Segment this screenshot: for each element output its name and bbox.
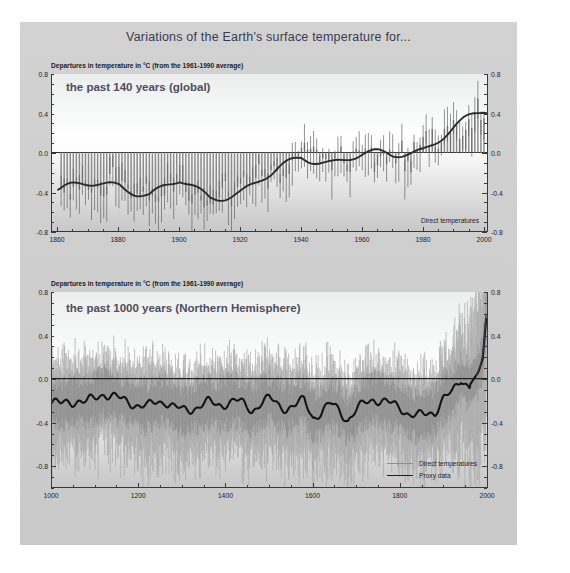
x-axis-tick-mark: [313, 483, 314, 488]
y-axis-tick-mark: [51, 114, 54, 115]
x-axis-tick-label: 1600: [305, 492, 320, 499]
y-axis-tick-mark: [484, 488, 487, 489]
y-axis-tick-mark: [482, 466, 487, 467]
x-axis-tick-mark: [400, 483, 401, 488]
chart-past-1000-years: Departures in temperature in °C (from th…: [20, 280, 517, 542]
y-axis-tick-mark: [51, 379, 56, 380]
y-axis-tick-mark: [484, 444, 487, 445]
x-axis-tick-mark: [182, 485, 183, 488]
y-axis-tick-mark: [484, 325, 487, 326]
y-axis-tick-mark: [484, 163, 487, 164]
y-axis-tick-mark: [51, 84, 54, 85]
x-axis-tick-mark: [225, 229, 226, 232]
y-axis-tick-label: 0.0: [39, 376, 48, 383]
chart-bottom-axis-caption: Departures in temperature in °C (from th…: [51, 280, 243, 287]
y-axis-tick-label: -0.4: [491, 189, 503, 196]
y-axis-tick-mark: [484, 455, 487, 456]
x-axis-tick-mark: [423, 227, 424, 232]
x-axis-tick-label: 1960: [354, 236, 369, 243]
y-axis-tick-mark: [484, 173, 487, 174]
y-axis-tick-mark: [51, 401, 54, 402]
y-axis-tick-label: 0.0: [39, 150, 48, 157]
y-axis-tick-mark: [484, 401, 487, 402]
y-axis-tick-label: -0.4: [36, 189, 48, 196]
y-axis-tick-mark: [51, 143, 54, 144]
y-axis-tick-mark: [51, 368, 54, 369]
chart-top-plot-wrap: the past 140 years (global) Direct tempe…: [51, 74, 487, 232]
chart-top-axis-caption: Departures in temperature in °C (from th…: [51, 62, 243, 69]
y-axis-tick-mark: [484, 477, 487, 478]
y-axis-tick-mark: [51, 292, 54, 293]
x-axis-tick-mark: [378, 485, 379, 488]
y-axis-tick-mark: [51, 133, 54, 134]
y-axis-tick-mark: [484, 143, 487, 144]
y-axis-tick-mark: [51, 202, 54, 203]
y-axis-tick-label: 0.8: [491, 71, 500, 78]
y-axis-tick-mark: [51, 434, 54, 435]
x-axis-tick-mark: [225, 483, 226, 488]
x-axis-tick-mark: [334, 485, 335, 488]
x-axis-tick-mark: [438, 229, 439, 232]
x-axis-tick-mark: [88, 229, 89, 232]
x-axis-tick-mark: [103, 229, 104, 232]
y-axis-tick-mark: [484, 114, 487, 115]
y-axis-tick-mark: [484, 183, 487, 184]
x-axis-tick-mark: [72, 229, 73, 232]
y-axis-tick-label: -0.8: [36, 463, 48, 470]
y-axis-tick-label: -0.8: [491, 229, 503, 236]
y-axis-tick-mark: [484, 84, 487, 85]
x-axis-tick-mark: [469, 229, 470, 232]
x-axis-tick-mark: [160, 485, 161, 488]
x-axis-tick-label: 1880: [111, 236, 126, 243]
y-axis-tick-mark: [484, 212, 487, 213]
y-axis-tick-label: 0.0: [491, 376, 500, 383]
x-axis-tick-mark: [316, 229, 317, 232]
x-axis-tick-mark: [269, 485, 270, 488]
x-axis-tick-label: 2000: [476, 236, 491, 243]
x-axis-tick-mark: [118, 227, 119, 232]
x-axis-tick-label: 2000: [479, 492, 494, 499]
x-axis-tick-mark: [453, 229, 454, 232]
legend-item-proxy-data: Proxy data: [387, 472, 477, 479]
x-axis-tick-label: 1900: [171, 236, 186, 243]
x-axis-tick-mark: [301, 227, 302, 232]
y-axis-tick-mark: [51, 477, 54, 478]
x-axis-tick-mark: [362, 227, 363, 232]
y-axis-tick-mark: [51, 466, 56, 467]
y-axis-tick-mark: [51, 488, 54, 489]
x-axis-tick-label: 1860: [50, 236, 65, 243]
y-axis-tick-mark: [51, 183, 54, 184]
x-axis-tick-mark: [164, 229, 165, 232]
legend-item-direct-temperatures: Direct temperatures: [387, 460, 477, 467]
y-axis-tick-label: 0.0: [491, 150, 500, 157]
x-axis-tick-mark: [73, 485, 74, 488]
chart-bottom-legend: Direct temperatures Proxy data: [387, 455, 477, 479]
chart-past-140-years: Departures in temperature in °C (from th…: [20, 62, 517, 292]
x-axis-tick-mark: [465, 485, 466, 488]
y-axis-tick-mark: [484, 434, 487, 435]
x-axis-tick-mark: [286, 229, 287, 232]
legend-swatch-direct-temperatures: [387, 463, 413, 464]
y-axis-tick-label: 0.8: [39, 289, 48, 296]
y-axis-tick-mark: [484, 336, 487, 337]
y-axis-tick-label: 0.4: [491, 110, 500, 117]
x-axis-tick-mark: [377, 229, 378, 232]
x-axis-tick-mark: [332, 229, 333, 232]
y-axis-tick-label: -0.4: [491, 419, 503, 426]
y-axis-tick-mark: [51, 94, 54, 95]
chart-top-direct-temperatures-note: Direct temperatures: [421, 217, 479, 224]
y-axis-tick-mark: [484, 368, 487, 369]
y-axis-tick-mark: [484, 412, 487, 413]
y-axis-tick-label: -0.8: [36, 229, 48, 236]
x-axis-tick-mark: [240, 227, 241, 232]
page-title: Variations of the Earth's surface temper…: [20, 30, 517, 44]
y-axis-tick-mark: [484, 74, 487, 75]
y-axis-tick-mark: [51, 173, 54, 174]
y-axis-tick-mark: [51, 455, 54, 456]
y-axis-tick-mark: [51, 104, 54, 105]
slide-panel: Variations of the Earth's surface temper…: [20, 22, 517, 545]
chart-top-data-svg: [52, 74, 487, 231]
y-axis-tick-label: 0.4: [39, 332, 48, 339]
y-axis-tick-mark: [482, 232, 487, 233]
y-axis-tick-mark: [51, 325, 54, 326]
